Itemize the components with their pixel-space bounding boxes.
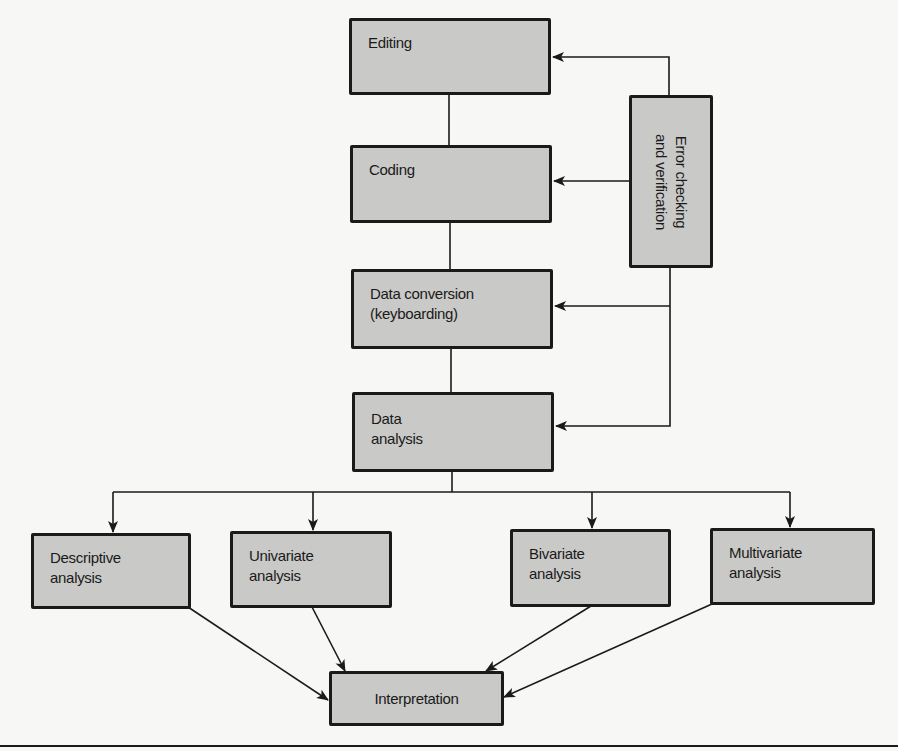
node-univariate-analysis: Univariate analysis bbox=[230, 531, 392, 608]
node-label: Coding bbox=[369, 160, 415, 180]
node-data-conversion: Data conversion (keyboarding) bbox=[351, 269, 553, 349]
node-bivariate-analysis: Bivariate analysis bbox=[510, 529, 671, 607]
node-editing: Editing bbox=[349, 18, 551, 95]
node-label: Multivariate analysis bbox=[729, 543, 802, 583]
node-label: Bivariate analysis bbox=[529, 544, 585, 584]
node-coding: Coding bbox=[350, 145, 552, 223]
connector-layer bbox=[0, 0, 898, 751]
node-data-analysis: Data analysis bbox=[352, 392, 554, 472]
edge-error-analysis bbox=[556, 267, 670, 426]
edge-descriptive-interp bbox=[188, 607, 328, 700]
node-label: Univariate analysis bbox=[249, 546, 314, 586]
node-error-checking: Error checking and verification bbox=[629, 95, 713, 268]
node-label: Editing bbox=[368, 33, 412, 53]
bottom-rule bbox=[0, 745, 898, 747]
node-label: Interpretation bbox=[332, 689, 501, 709]
edge-multivariate-interp bbox=[504, 604, 712, 697]
node-label: Descriptive analysis bbox=[50, 548, 121, 588]
edge-univariate-interp bbox=[312, 607, 345, 671]
edge-bivariate-interp bbox=[486, 606, 591, 671]
node-label: Data conversion (keyboarding) bbox=[370, 284, 474, 324]
node-label: Error checking and verification bbox=[651, 97, 691, 267]
node-interpretation: Interpretation bbox=[329, 671, 504, 726]
node-label: Data analysis bbox=[371, 409, 423, 449]
node-multivariate-analysis: Multivariate analysis bbox=[710, 528, 875, 605]
edge-error-editing bbox=[553, 57, 669, 95]
node-descriptive-analysis: Descriptive analysis bbox=[31, 533, 191, 609]
